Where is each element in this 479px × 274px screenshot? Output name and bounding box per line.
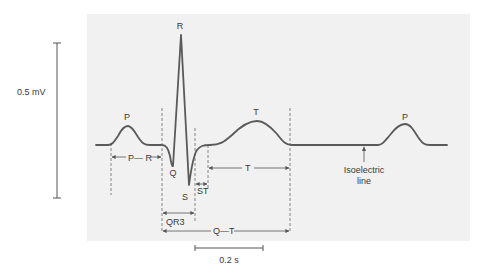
isoelectric-label-line2: line bbox=[357, 176, 371, 186]
s-wave-label: S bbox=[182, 192, 188, 202]
time-scale-bar bbox=[195, 245, 263, 251]
isoelectric-pointer bbox=[362, 146, 366, 162]
pr-interval-label: P— R bbox=[128, 153, 153, 163]
ecg-svg: 0.5 mV P— R ST T bbox=[0, 0, 479, 274]
r-wave-label: R bbox=[177, 21, 184, 31]
p-wave-label: P bbox=[124, 112, 130, 122]
qrs-interval-label: QR3 bbox=[166, 217, 185, 227]
voltage-scale-label: 0.5 mV bbox=[17, 87, 46, 97]
t-wave-label: T bbox=[253, 107, 259, 117]
ecg-trace bbox=[96, 35, 447, 185]
qt-interval-label: Q—T bbox=[213, 226, 235, 236]
t-interval-label: T bbox=[245, 163, 251, 173]
time-scale-label: 0.2 s bbox=[219, 255, 239, 265]
voltage-scale-bar bbox=[53, 43, 61, 198]
isoelectric-label-line1: Isoelectric bbox=[344, 165, 385, 175]
interval-guides bbox=[111, 108, 290, 232]
q-wave-label: Q bbox=[169, 168, 176, 178]
ecg-diagram: 0.5 mV P— R ST T bbox=[0, 0, 479, 274]
st-interval-label: ST bbox=[197, 186, 209, 196]
p-wave-label-2: P bbox=[402, 112, 408, 122]
